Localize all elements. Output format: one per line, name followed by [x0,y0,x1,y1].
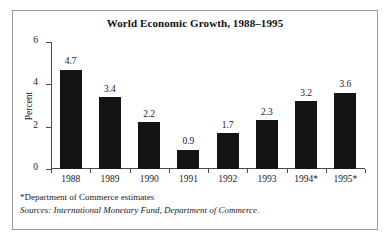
y-axis-tick-label: 6 [33,35,38,45]
bar-item: 3.2 [295,89,317,169]
x-axis-tick [208,169,209,173]
bar-value-label: 1.7 [222,121,234,131]
bar-value-label: 2.3 [261,108,273,118]
bar-item: 2.3 [256,108,278,169]
bar-value-label: 4.7 [65,57,77,67]
plot-area: 0246 4.73.42.20.91.72.33.23.6 [51,42,365,169]
y-axis-tick-label: 2 [33,120,38,130]
footnote-estimates: *Department of Commerce estimates [20,191,259,204]
x-axis-label: 1993 [247,174,286,184]
footnote-sources: Sources: International Monetary Fund, De… [20,204,259,217]
x-axis-label: 1988 [51,174,90,184]
bar-item: 4.7 [60,57,82,169]
x-axis-label: 1995* [326,174,365,184]
bar-rect [99,97,121,169]
bar-item: 3.4 [99,85,121,169]
x-axis-tick [326,169,327,173]
chart-title: World Economic Growth, 1988–1995 [13,17,377,29]
y-axis-tick: 2 [46,127,51,128]
bar-rect [138,122,160,169]
y-axis-tick-label: 0 [33,162,38,172]
y-axis-tick: 4 [46,84,51,85]
x-axis-tick [365,169,366,173]
y-axis-line [51,42,52,169]
chart-figure: World Economic Growth, 1988–1995 Percent… [12,10,378,230]
x-axis-label: 1989 [90,174,129,184]
x-axis-tick [169,169,170,173]
x-axis-label: 1994* [287,174,326,184]
bar-rect [295,101,317,169]
bar-rect [60,70,82,169]
bar-item: 2.2 [138,110,160,169]
bar-value-label: 3.4 [104,85,116,95]
bar-value-label: 0.9 [182,137,194,147]
bar-rect [256,120,278,169]
y-axis-tick: 6 [46,42,51,43]
x-axis-label: 1992 [208,174,247,184]
bar-rect [334,93,356,169]
bar-item: 0.9 [177,137,199,169]
x-axis-tick [287,169,288,173]
x-axis-tick [130,169,131,173]
bar-rect [217,133,239,169]
x-axis-tick [247,169,248,173]
bar-value-label: 2.2 [143,110,155,120]
bar-item: 3.6 [334,80,356,169]
x-axis-label: 1990 [130,174,169,184]
x-axis-tick [51,169,52,173]
y-axis-title-text: Percent [24,91,34,120]
bar-value-label: 3.2 [300,89,312,99]
x-axis-tick [90,169,91,173]
bar-value-label: 3.6 [339,80,351,90]
bar-rect [177,150,199,169]
y-axis-title: Percent [23,42,35,169]
footnote-block: *Department of Commerce estimates Source… [20,191,259,217]
x-axis-label: 1991 [169,174,208,184]
y-axis-tick-label: 4 [33,77,38,87]
bar-item: 1.7 [217,121,239,169]
